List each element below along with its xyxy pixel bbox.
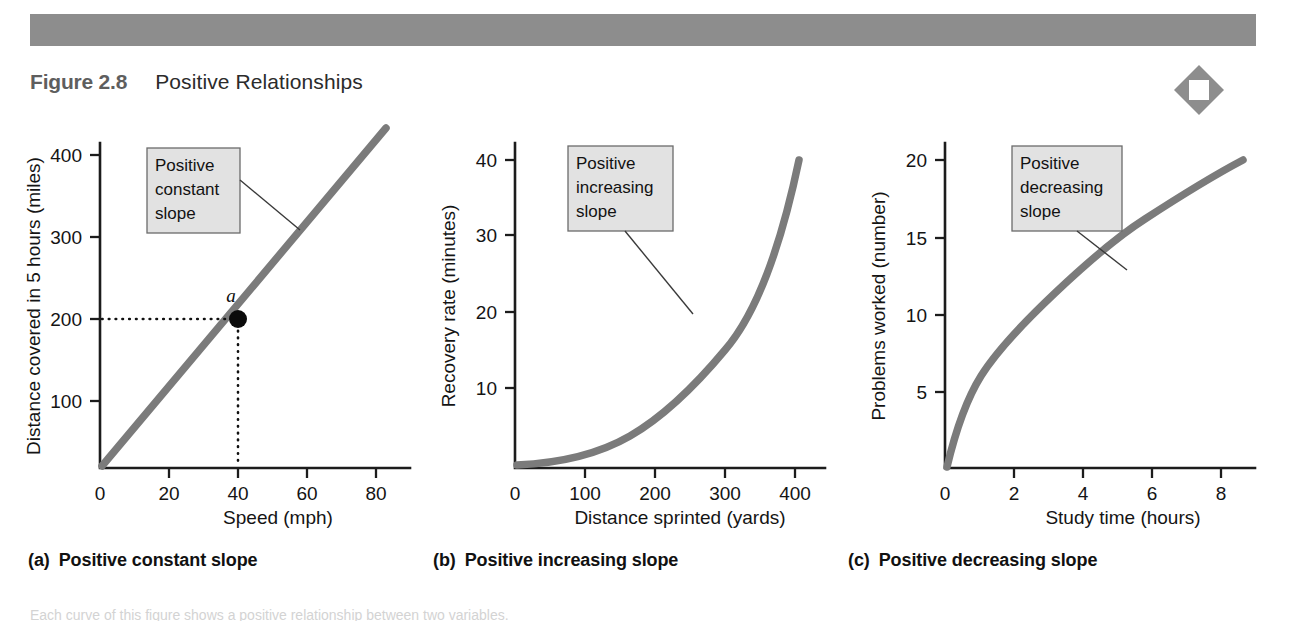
panel-c-y-axis-label: Problems worked (number) [868,191,889,420]
panel-c-x-ticks [1014,468,1221,478]
header-band [30,14,1256,46]
panel-c-y-ticks [935,160,945,392]
caption-c-text: Positive decreasing slope [879,550,1098,570]
panel-c-xtick-4: 4 [1078,483,1089,504]
panel-b-xtick-100: 100 [569,483,601,504]
figure-number: Figure 2.8 [30,70,127,94]
chart-panel-a: 400 300 200 100 0 20 40 60 80 Speed (mph… [10,118,430,538]
panel-a-callout-leader [240,180,300,230]
panel-b-callout-leader [625,231,693,314]
panel-b-ytick-40: 40 [476,150,497,171]
panel-b-xtick-400: 400 [779,483,811,504]
panel-b-callout-line2: increasing [576,178,654,197]
diamond-square-icon [1172,63,1226,117]
panel-c-xtick-8: 8 [1216,483,1227,504]
panel-c-ytick-5: 5 [916,382,927,403]
panel-a-x-axis-label: Speed (mph) [223,507,333,528]
panel-a-ytick-300: 300 [50,227,82,248]
panel-c-callout-line1: Positive [1020,154,1080,173]
panel-c-ytick-20: 20 [906,150,927,171]
panel-b-callout-line1: Positive [576,154,636,173]
panel-c-callout: Positive decreasing slope [1012,146,1127,270]
panel-a-y-ticks [90,155,100,401]
caption-b-text: Positive increasing slope [465,550,679,570]
panel-b-callout: Positive increasing slope [568,146,693,314]
panel-a-xtick-40: 40 [227,483,248,504]
cutoff-source-line: Each curve of this figure shows a positi… [30,607,650,621]
caption-panel-a: (a)Positive constant slope [28,550,257,571]
caption-b-tag: (b) [433,550,456,570]
panel-a-callout-line2: constant [155,180,220,199]
caption-panel-c: (c)Positive decreasing slope [848,550,1097,571]
panel-c-xtick-6: 6 [1147,483,1158,504]
panel-b-xtick-0: 0 [510,483,521,504]
panel-a-callout: Positive constant slope [147,148,300,233]
caption-a-text: Positive constant slope [59,550,258,570]
panel-a-x-ticks [169,468,376,478]
figure-heading: Figure 2.8 Positive Relationships [30,70,363,94]
panel-a-line-series [102,128,386,466]
panel-c-ytick-15: 15 [906,228,927,249]
chart-panel-c: 20 15 10 5 0 2 4 6 8 Study time (hours) … [855,118,1275,538]
panel-b-ytick-30: 30 [476,225,497,246]
panel-c-ytick-10: 10 [906,305,927,326]
panel-a-xtick-60: 60 [296,483,317,504]
panel-a-ytick-100: 100 [50,391,82,412]
panel-a-xtick-0: 0 [95,483,106,504]
panel-a-point-a [229,310,247,328]
panel-a-callout-line3: slope [155,204,196,223]
panel-a-ytick-400: 400 [50,145,82,166]
panel-a-xtick-20: 20 [158,483,179,504]
caption-a-tag: (a) [28,550,50,570]
panel-b-x-ticks [585,468,795,478]
panel-c-x-axis-label: Study time (hours) [1045,507,1200,528]
panel-b-xtick-200: 200 [639,483,671,504]
panel-c-xtick-0: 0 [940,483,951,504]
caption-panel-b: (b)Positive increasing slope [433,550,678,571]
figure-title: Positive Relationships [155,70,363,94]
panel-a-y-axis-label: Distance covered in 5 hours (miles) [23,157,44,455]
panel-a-point-a-label: a [226,285,236,306]
panel-b-xtick-300: 300 [709,483,741,504]
panel-b-x-axis-label: Distance sprinted (yards) [574,507,785,528]
panel-b-ytick-20: 20 [476,302,497,323]
panel-b-ytick-10: 10 [476,378,497,399]
panel-a-ytick-200: 200 [50,309,82,330]
panel-c-callout-line2: decreasing [1020,178,1103,197]
panel-a-xtick-80: 80 [365,483,386,504]
panel-b-y-ticks [505,160,515,388]
chart-panel-b: 40 30 20 10 0 100 200 300 400 Distance s… [425,118,845,538]
panel-c-xtick-2: 2 [1009,483,1020,504]
panel-b-callout-line3: slope [576,202,617,221]
panel-c-callout-line3: slope [1020,202,1061,221]
caption-c-tag: (c) [848,550,870,570]
panel-b-y-axis-label: Recovery rate (minutes) [438,205,459,408]
panel-a-callout-line1: Positive [155,156,215,175]
